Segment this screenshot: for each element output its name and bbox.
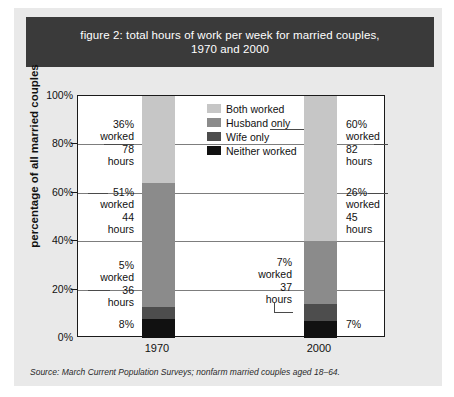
annotation-2000-both-worked-verb: worked [346,130,408,142]
figure-title-line-1: figure 2: total hours of work per week f… [80,28,379,42]
legend-label-both-worked: Both worked [226,103,284,115]
figure-title-bar: figure 2: total hours of work per week f… [26,17,434,67]
annotation-1970-wife-only-verb: worked [72,271,134,283]
annotation-1970-wife-only-hours-unit: hours [72,296,134,308]
bar-2000-segment-wife-only[interactable] [304,304,337,321]
annotation-1970-both-worked: 36% worked 78 hours [72,118,134,168]
figure-page: figure 2: total hours of work per week f… [0,0,454,397]
annotation-1970-husband-only-hours-unit: hours [72,223,134,235]
plot-area: Both worked Husband only Wife only Neith… [77,95,385,337]
legend-item-wife-only[interactable]: Wife only [207,130,319,144]
annotation-2000-both-worked-hours-unit: hours [346,155,408,167]
figure-title-line-2: 1970 and 2000 [191,42,269,56]
annotation-1970-both-worked-hours-unit: hours [72,155,134,167]
annotation-2000-husband-only-hours-unit: hours [346,223,408,235]
annotation-1970-wife-only: 5% worked 36 hours [72,259,134,309]
bar-2000-segment-husband-only[interactable] [304,241,337,304]
source-note: Source: March Current Population Surveys… [30,367,340,377]
annotation-2000-wife-only-hours: 37 [230,281,292,293]
annotation-1970-both-worked-verb: worked [72,130,134,142]
leader-line-1970-husband-only [88,193,108,194]
bar-1970[interactable] [142,96,175,338]
bar-1970-segment-husband-only[interactable] [142,183,175,306]
annotation-1970-husband-only-verb: worked [72,198,134,210]
legend-label-neither-worked: Neither worked [226,145,297,157]
bar-2000-segment-neither-worked[interactable] [304,321,337,338]
gridline-40 [78,241,384,242]
annotation-2000-husband-only-verb: worked [346,198,408,210]
leader-line-2000-wife-only-horizontal [274,312,293,313]
annotation-2000-both-worked: 60% worked 82 hours [346,118,408,168]
leader-line-2000-both-worked [374,144,388,145]
x-tick-label-2000: 2000 [279,342,359,354]
annotation-2000-husband-only-hours: 45 [346,211,408,223]
annotation-2000-both-worked-pct: 60% [346,118,408,130]
legend-label-wife-only: Wife only [226,131,269,143]
annotation-2000-wife-only: 7% worked 37 hours [230,256,292,306]
annotation-2000-wife-only-hours-unit: hours [230,293,292,305]
y-axis-tick-marks [0,95,80,337]
annotation-1970-husband-only-hours: 44 [72,211,134,223]
annotation-2000-neither-worked: 7% [346,318,408,330]
annotation-1970-both-worked-pct: 36% [72,118,134,130]
leader-line-1970-both-worked [104,144,134,145]
legend-item-both-worked[interactable]: Both worked [207,102,319,116]
annotation-2000-wife-only-pct: 7% [230,256,292,268]
annotation-1970-neither-worked-pct: 8% [72,318,134,330]
legend-swatch-both-worked [207,104,221,113]
leader-line-1970-wife-only [88,290,110,291]
legend-swatch-neither-worked [207,146,221,155]
annotation-1970-wife-only-pct: 5% [72,259,134,271]
legend: Both worked Husband only Wife only Neith… [207,102,319,158]
bar-1970-segment-both-worked[interactable] [142,96,175,183]
annotation-2000-wife-only-verb: worked [230,268,292,280]
legend-item-neither-worked[interactable]: Neither worked [207,144,319,158]
x-tick-label-1970: 1970 [117,342,197,354]
legend-label-husband-only: Husband only [226,117,290,129]
legend-item-husband-only[interactable]: Husband only [207,116,319,130]
annotation-2000-neither-worked-pct: 7% [346,318,408,330]
legend-swatch-wife-only [207,132,221,141]
leader-line-2000-husband-only [368,193,388,194]
legend-swatch-husband-only [207,118,221,127]
annotation-1970-neither-worked: 8% [72,318,134,330]
bar-1970-segment-neither-worked[interactable] [142,319,175,338]
leader-line-legend-wife-only [270,129,304,130]
bar-1970-segment-wife-only[interactable] [142,307,175,319]
